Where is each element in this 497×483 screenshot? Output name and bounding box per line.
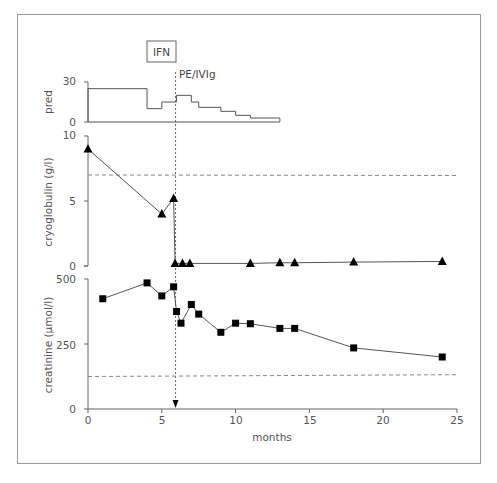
cryo-line: [88, 149, 442, 263]
cryo-tick-5: 5: [69, 195, 76, 207]
chart: IFN PE/IVIg 30 0 10 5 0 500 250 0 0 5 10…: [0, 0, 497, 483]
square-marker: [188, 301, 195, 308]
square-marker: [177, 320, 184, 327]
cryo-tick-0: 0: [69, 260, 76, 272]
square-marker: [247, 320, 254, 327]
pred-tick-0: 0: [69, 116, 76, 128]
square-marker: [439, 354, 446, 361]
x-tick-5: 5: [159, 414, 166, 426]
pred-step-line: [88, 89, 280, 122]
triangle-marker: [185, 258, 194, 267]
creat-tick-250: 250: [56, 339, 76, 351]
ifn-label: IFN: [153, 46, 170, 58]
creat-tick-0: 0: [69, 403, 76, 415]
square-marker: [158, 292, 165, 299]
square-marker: [195, 311, 202, 318]
triangle-marker: [290, 258, 299, 267]
axes: [84, 82, 457, 413]
square-marker: [291, 325, 298, 332]
square-marker: [276, 325, 283, 332]
triangle-marker: [171, 258, 180, 267]
x-tick-15: 15: [303, 414, 316, 426]
arrow-down-icon: [173, 400, 179, 408]
x-tick-25: 25: [450, 414, 463, 426]
triangle-marker: [169, 193, 178, 202]
cryo-axis-title: cryoglobulin (g/l): [42, 157, 54, 246]
triangle-marker: [438, 256, 447, 265]
x-tick-10: 10: [229, 414, 242, 426]
creatinine-reference-dashed-line: [88, 375, 459, 377]
pred-tick-30: 30: [63, 75, 76, 87]
square-marker: [217, 329, 224, 336]
square-marker: [99, 295, 106, 302]
square-marker: [232, 320, 239, 327]
square-marker: [170, 283, 177, 290]
triangle-marker: [178, 258, 187, 267]
x-tick-20: 20: [376, 414, 389, 426]
pred-axis-title: pred: [42, 90, 54, 114]
square-marker: [173, 308, 180, 315]
creatinine-line: [103, 283, 442, 357]
square-marker: [350, 344, 357, 351]
triangle-marker: [84, 144, 93, 153]
cryo-tick-10: 10: [63, 129, 76, 141]
cryo-reference-dashed-line: [88, 175, 459, 176]
data-lines: [88, 72, 459, 408]
creat-axis-title: creatinine (µmol/l): [42, 297, 54, 394]
x-tick-0: 0: [85, 414, 92, 426]
pe-ivig-label: PE/IVIg: [179, 68, 216, 80]
data-markers: [84, 144, 447, 361]
creat-tick-500: 500: [56, 273, 76, 285]
square-marker: [144, 279, 151, 286]
triangle-marker: [349, 257, 358, 266]
triangle-marker: [275, 258, 284, 267]
triangle-marker: [246, 258, 255, 267]
x-axis-title: months: [252, 431, 292, 443]
